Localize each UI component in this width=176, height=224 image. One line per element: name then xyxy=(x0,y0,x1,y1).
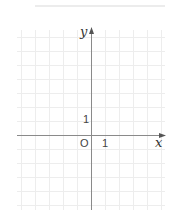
y-axis xyxy=(89,27,94,210)
origin-label: O xyxy=(80,138,89,149)
x-axis-label: x xyxy=(155,136,162,149)
coordinate-grid xyxy=(0,0,176,224)
y-axis-label: y xyxy=(80,25,87,38)
y-unit-tick-label: 1 xyxy=(83,114,89,125)
y-axis-arrow-icon xyxy=(89,27,94,34)
x-unit-tick-label: 1 xyxy=(102,138,108,149)
coordinate-plane: y x O 1 1 xyxy=(0,0,176,224)
